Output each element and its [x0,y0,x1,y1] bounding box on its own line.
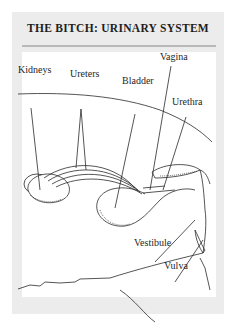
leader-ureters-b [81,109,86,170]
label-vagina: Vagina [160,51,188,62]
label-urethra: Urethra [172,96,203,107]
belly-outline [18,253,203,289]
label-kidneys: Kidneys [18,64,51,75]
bladder-stipple [100,210,130,225]
leader-urethra [163,117,186,190]
kidney-front [28,174,70,203]
label-bladder: Bladder [122,75,154,86]
bladder [97,188,195,226]
urinary-system-illustration [0,0,233,328]
tail-outline [200,258,210,290]
leader-bladder [115,114,135,208]
leader-ureters-a [76,109,81,168]
hindleg-outline [120,290,155,322]
label-vulva: Vulva [164,260,188,271]
vagina-tube [143,186,165,188]
label-ureters: Ureters [70,68,99,79]
anus-fold [200,170,210,253]
rectum [152,165,200,178]
label-vestibule: Vestibule [134,237,171,248]
